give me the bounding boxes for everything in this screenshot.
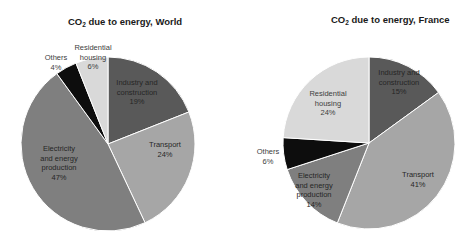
france-pie-chart: CO2 due to energy, France Industry andco… bbox=[0, 0, 473, 239]
slice-label-electricity-and-energy-production: Electricityand energyproduction14% bbox=[295, 171, 333, 209]
slice-label-industry-and-construction: Industry andconstruction15% bbox=[378, 68, 419, 97]
slice-label-residential-housing: Residentialhousing24% bbox=[309, 89, 346, 118]
france-pie bbox=[0, 0, 473, 239]
slice-label-others: Others6% bbox=[257, 147, 280, 166]
slice-label-transport: Transport41% bbox=[402, 170, 434, 189]
